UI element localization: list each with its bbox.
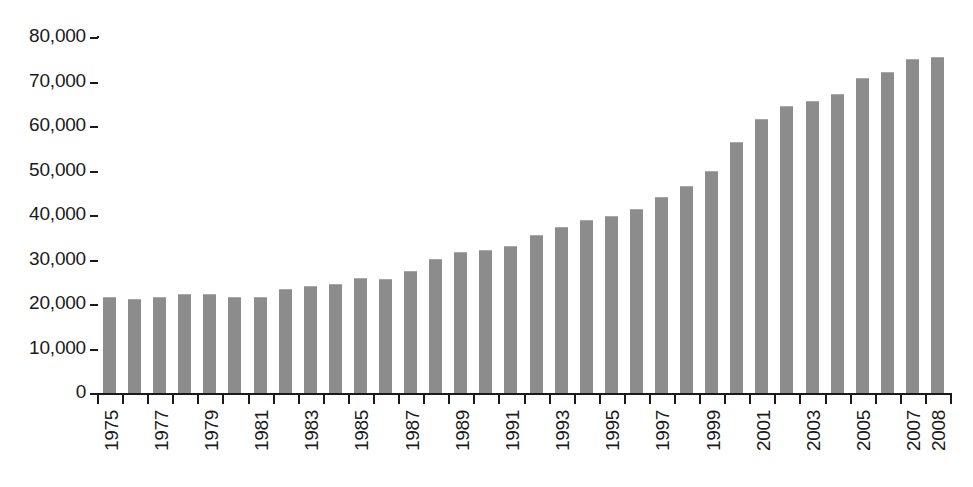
bar (103, 297, 116, 394)
y-axis-tick (90, 349, 98, 351)
bar (906, 59, 919, 394)
x-axis-tick-label: 2003 (803, 410, 825, 451)
y-axis-tick-label: 20,000 (2, 292, 86, 314)
bar (705, 171, 718, 394)
x-axis-tick (799, 395, 801, 404)
x-axis-tick-label: 2008 (928, 410, 950, 451)
x-axis-tick-label: 1993 (552, 410, 574, 451)
y-axis-tick-label: 50,000 (2, 159, 86, 181)
x-axis-tick (649, 395, 651, 404)
bar (429, 259, 442, 394)
x-axis-tick-label: 1977 (151, 410, 173, 451)
y-axis-tick (90, 82, 98, 84)
x-axis-tick-label: 1975 (101, 410, 123, 451)
x-axis-tick (774, 395, 776, 404)
bar (605, 216, 618, 394)
x-axis-tick (172, 395, 174, 404)
x-axis-tick-label: 1985 (351, 410, 373, 451)
bar (655, 197, 668, 394)
bar (881, 72, 894, 394)
x-axis-tick-label: 1999 (703, 410, 725, 451)
bar (780, 106, 793, 394)
x-axis-tick (950, 395, 952, 404)
x-axis-tick (850, 395, 852, 404)
x-axis-tick-label: 1991 (502, 410, 524, 451)
x-axis-tick (674, 395, 676, 404)
x-axis-tick-label: 2007 (903, 410, 925, 451)
x-axis-tick-label: 1997 (652, 410, 674, 451)
y-axis-tick-label: 70,000 (2, 70, 86, 92)
x-axis-tick (549, 395, 551, 404)
y-axis-tick-label: 60,000 (2, 114, 86, 136)
bar (354, 278, 367, 394)
y-axis-tick (90, 260, 98, 262)
x-axis-tick (900, 395, 902, 404)
bar (931, 57, 944, 394)
x-axis-tick (875, 395, 877, 404)
y-axis-tick (90, 393, 98, 395)
y-axis-tick-label: 10,000 (2, 337, 86, 359)
bar-chart: 010,00020,00030,00040,00050,00060,00070,… (0, 0, 973, 487)
y-axis-tick-label: 0 (2, 381, 86, 403)
x-axis-tick-label: 2001 (753, 410, 775, 451)
plot-area (97, 38, 950, 394)
bar (806, 101, 819, 394)
y-axis-tick (90, 304, 98, 306)
bar (153, 297, 166, 394)
x-axis-tick-label: 1981 (251, 410, 273, 451)
x-axis-tick (925, 395, 927, 404)
y-axis-labels: 010,00020,00030,00040,00050,00060,00070,… (0, 0, 86, 487)
bar (831, 94, 844, 394)
bar (680, 186, 693, 394)
x-axis-tick-label: 1979 (201, 410, 223, 451)
x-axis-tick (373, 395, 375, 404)
x-axis-tick (97, 395, 99, 404)
bar (329, 284, 342, 394)
bar (404, 271, 417, 394)
bar (630, 209, 643, 394)
y-axis-tick (90, 215, 98, 217)
bar (454, 252, 467, 394)
x-axis-tick (248, 395, 250, 404)
y-axis-tick-label: 80,000 (2, 25, 86, 47)
bar (580, 220, 593, 394)
x-axis-tick (724, 395, 726, 404)
y-axis-tick (90, 126, 98, 128)
x-axis-tick (298, 395, 300, 404)
x-axis-tick (599, 395, 601, 404)
y-axis-tick-label: 40,000 (2, 203, 86, 225)
y-axis-tick-label: 30,000 (2, 248, 86, 270)
x-axis-tick (524, 395, 526, 404)
bar (128, 299, 141, 394)
x-axis-tick (749, 395, 751, 404)
x-axis-tick (423, 395, 425, 404)
x-axis-tick (624, 395, 626, 404)
x-axis-tick-label: 1989 (452, 410, 474, 451)
bar (228, 297, 241, 394)
x-axis-tick-label: 1983 (301, 410, 323, 451)
bar (555, 227, 568, 394)
bar (856, 78, 869, 394)
x-axis-tick (222, 395, 224, 404)
x-axis-tick-label: 2005 (853, 410, 875, 451)
x-axis-tick (147, 395, 149, 404)
y-axis-tick (90, 171, 98, 173)
x-axis-tick (574, 395, 576, 404)
x-axis-tick (273, 395, 275, 404)
x-axis-tick (498, 395, 500, 404)
x-axis-tick (473, 395, 475, 404)
x-axis-tick (122, 395, 124, 404)
bar (730, 142, 743, 394)
x-axis-tick (323, 395, 325, 404)
bar (504, 246, 517, 394)
bar (279, 289, 292, 394)
bar (304, 286, 317, 394)
x-axis-tick (398, 395, 400, 404)
bar (203, 294, 216, 394)
bar (755, 119, 768, 394)
x-axis-tick (699, 395, 701, 404)
bar (479, 250, 492, 394)
bar (178, 294, 191, 394)
x-axis-tick (448, 395, 450, 404)
bar (530, 235, 543, 394)
